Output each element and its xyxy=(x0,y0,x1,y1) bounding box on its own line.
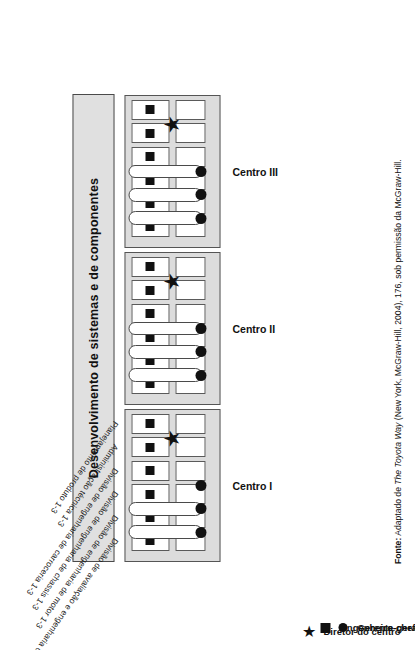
center-director-star-icon: ★ xyxy=(160,115,181,134)
circle-icon xyxy=(334,623,350,632)
program-track xyxy=(128,188,202,202)
chief-engineer-marker xyxy=(145,129,154,138)
chief-engineer-marker xyxy=(145,466,154,475)
program-track xyxy=(128,345,202,359)
source-rest: (New York, McGraw-Hill, 2004), 176, sob … xyxy=(392,159,402,422)
center-block-3[interactable]: ★ xyxy=(124,95,220,248)
chief-engineer-marker xyxy=(145,490,154,499)
star-icon: ★ xyxy=(300,622,316,641)
center-block-2[interactable]: ★ xyxy=(124,252,220,405)
chief-engineer-marker xyxy=(145,106,154,115)
source-prefix: Fonte: xyxy=(392,538,402,564)
program-track xyxy=(128,322,202,336)
lane-segment xyxy=(175,147,205,167)
functional-gm-marker xyxy=(195,527,206,538)
center-director-star-icon: ★ xyxy=(160,272,181,291)
center-block-1[interactable]: ★ xyxy=(124,409,220,562)
rotated-figure-stage: Desenvolvimento de sistemas e de compone… xyxy=(0,0,415,650)
center-caption-3: Centro III xyxy=(232,167,278,179)
legend-label: Gerente-geral funcional xyxy=(357,622,415,633)
functional-gm-marker xyxy=(195,213,206,224)
functional-gm-marker xyxy=(195,346,206,357)
functional-gm-marker xyxy=(195,370,206,381)
center-caption-2: Centro II xyxy=(232,324,275,336)
functional-gm-marker xyxy=(195,323,206,334)
program-track xyxy=(128,526,202,540)
chief-engineer-marker xyxy=(145,263,154,272)
figure-page: Desenvolvimento de sistemas e de compone… xyxy=(0,0,415,650)
functional-gm-marker xyxy=(195,503,206,514)
program-track xyxy=(128,165,202,179)
center-caption-1: Centro I xyxy=(232,481,272,493)
chief-engineer-marker xyxy=(145,443,154,452)
program-track xyxy=(128,369,202,383)
figure-title: Desenvolvimento de sistemas e de compone… xyxy=(86,178,100,479)
chief-engineer-marker xyxy=(145,420,154,429)
chief-engineer-marker xyxy=(145,152,154,161)
center-director-star-icon: ★ xyxy=(160,429,181,448)
square-icon xyxy=(317,623,333,633)
source-note: Fonte: Adaptado de The Toyota Way (New Y… xyxy=(392,159,402,564)
source-work-title: The Toyota Way xyxy=(392,423,402,485)
functional-gm-marker xyxy=(195,480,206,491)
lane-segment xyxy=(175,461,205,481)
functional-gm-marker xyxy=(195,189,206,200)
chief-engineer-marker xyxy=(145,309,154,318)
chief-engineer-marker xyxy=(145,286,154,295)
program-track xyxy=(128,212,202,226)
source-lead: Adaptado de xyxy=(392,485,402,538)
functional-gm-marker xyxy=(195,166,206,177)
legend-row-3: Gerente-geral funcional xyxy=(334,622,415,633)
lane-segment xyxy=(175,304,205,324)
program-track xyxy=(128,502,202,516)
